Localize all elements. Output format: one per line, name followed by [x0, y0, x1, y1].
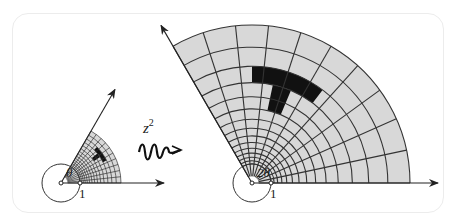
map-label: z2 [142, 117, 154, 136]
origin-point [250, 181, 254, 185]
angle-label: θ [66, 165, 73, 180]
unit-point [269, 181, 273, 185]
unit-point [78, 181, 82, 185]
unit-label: 1 [79, 186, 86, 201]
mapping-squiggle-arrow [139, 145, 181, 160]
origin-point [59, 181, 63, 185]
conformal-map-diagram: θ1 2θ1 z2 [0, 0, 451, 221]
angle-label: 2θ [257, 165, 271, 180]
unit-label: 1 [270, 186, 277, 201]
image-wedge: 2θ1 [161, 25, 438, 202]
domain-wedge: θ1 [42, 89, 164, 202]
